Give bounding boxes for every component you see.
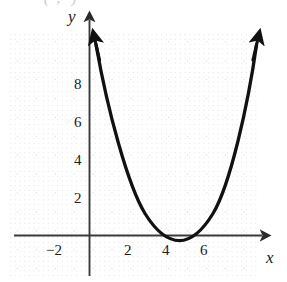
y-axis-label: y — [68, 8, 76, 25]
x-tick-label-4: 4 — [162, 243, 170, 258]
x-tick-label-minus2: −2 — [46, 243, 62, 258]
x-axis-label: x — [266, 249, 274, 266]
x-tick-label-6: 6 — [200, 243, 208, 258]
parabola-curve — [95, 42, 257, 241]
y-tick-label-4: 4 — [74, 153, 82, 168]
parabola-right-arrow — [253, 42, 257, 61]
parabola-path — [96, 45, 256, 241]
y-tick-label-2: 2 — [74, 191, 82, 206]
y-tick-label-8: 8 — [74, 77, 82, 92]
x-tick-label-2: 2 — [124, 243, 132, 258]
parabola-left-arrow — [95, 42, 99, 61]
graph-canvas — [0, 0, 287, 282]
parabola-graph-figure: (–, –) −2 2 4 6 2 4 6 8 — [0, 0, 287, 282]
y-tick-label-6: 6 — [74, 115, 82, 130]
